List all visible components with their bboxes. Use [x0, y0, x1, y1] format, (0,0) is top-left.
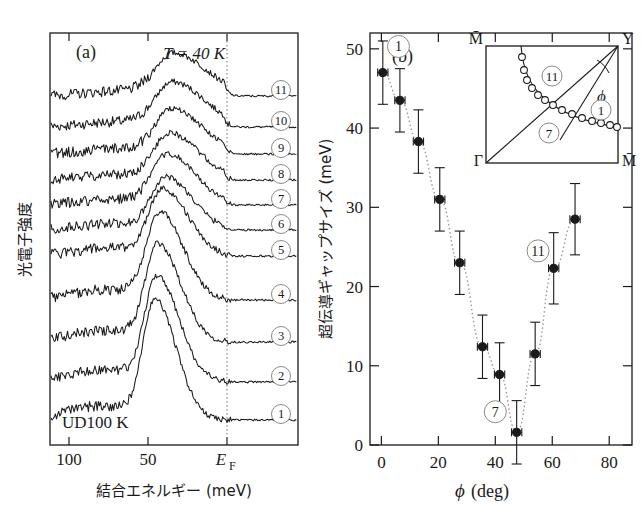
ef-subscript: F [229, 459, 236, 473]
panel-a-xtick-50: 50 [140, 450, 157, 469]
edc-index-label-2: 2 [278, 369, 284, 383]
panel-b-xtick-label-40: 40 [487, 453, 504, 472]
panel-b-ytick-label-40: 40 [346, 119, 363, 138]
panel-b-ytick-labels: 01020304050 [346, 40, 363, 455]
gap-marker [513, 428, 521, 436]
fs-point-9 [569, 111, 576, 118]
gap-marker [436, 195, 444, 203]
inset-brillouin-zone: M̄ Y Γ M̄ ϕ 1171 [469, 30, 636, 169]
inset-index-label-1: 1 [598, 103, 605, 118]
figure-svg: (a) T = 40 K UD100 K 1234567891011 100 5… [0, 0, 644, 515]
gap-marker [414, 137, 422, 145]
ef-base: E [215, 450, 227, 469]
fs-point-8 [559, 107, 566, 114]
panel-b-xtick-label-60: 60 [544, 453, 561, 472]
edc-index-label-5: 5 [278, 243, 284, 257]
panel-a-x-axis-title: 結合エネルギー (meV) [96, 482, 252, 500]
panel-a: (a) T = 40 K UD100 K 1234567891011 100 5… [16, 33, 298, 500]
fs-point-14 [614, 124, 621, 131]
panel-b-xtick-label-80: 80 [601, 453, 618, 472]
fs-point-2 [521, 67, 528, 74]
edc-index-label-8: 8 [278, 167, 284, 181]
panel-a-frame [50, 33, 298, 445]
gap-marker [478, 343, 486, 351]
panel-b-xtick-label-0: 0 [377, 453, 386, 472]
label-m-bar-bottom: M̄ [622, 152, 636, 169]
inset-index-label-7: 7 [546, 126, 553, 141]
edc-index-label-7: 7 [278, 192, 284, 206]
figure-root: (a) T = 40 K UD100 K 1234567891011 100 5… [0, 0, 644, 515]
gap-annot-label-1: 1 [395, 39, 402, 54]
gap-marker [379, 69, 387, 77]
fs-point-5 [535, 92, 542, 99]
gap-marker [571, 215, 579, 223]
panel-b-y-axis-title: 超伝導ギャップサイズ (meV) [317, 139, 335, 340]
inset-index-label-11: 11 [546, 69, 559, 84]
gap-annot-label-7: 7 [492, 405, 499, 420]
gap-marker [396, 96, 404, 104]
gap-marker [550, 264, 558, 272]
panel-a-xtick-ef: E F [215, 450, 236, 473]
edc-index-label-1: 1 [278, 407, 284, 421]
panel-b-ytick-label-0: 0 [355, 436, 364, 455]
temperature-annotation: T = 40 K [163, 44, 226, 63]
panel-b-ytick-label-50: 50 [346, 40, 363, 59]
sample-annotation: UD100 K [62, 413, 129, 432]
fs-point-6 [542, 97, 549, 104]
fs-point-7 [550, 102, 557, 109]
label-y: Y [622, 30, 634, 47]
panel-b-xtick-label-20: 20 [430, 453, 447, 472]
panel-b-xtick-labels: 020406080 [377, 453, 618, 472]
panel-a-y-axis-title: 光電子強度 [16, 202, 34, 277]
panel-a-label: (a) [76, 42, 96, 63]
panel-b-x-axis-title: ϕ (deg) [455, 480, 509, 502]
fs-point-1 [519, 54, 526, 61]
edc-index-label-9: 9 [278, 141, 284, 155]
fs-point-11 [589, 118, 596, 125]
deg-unit: (deg) [471, 481, 509, 502]
edc-index-label-11: 11 [275, 83, 287, 97]
edc-index-label-10: 10 [275, 114, 288, 128]
edc-index-label-4: 4 [278, 287, 285, 301]
fs-point-3 [524, 77, 531, 84]
panel-b-ytick-label-10: 10 [346, 357, 363, 376]
gap-marker [531, 350, 539, 358]
label-m-bar-top: M̄ [469, 30, 483, 47]
label-gamma: Γ [474, 152, 483, 169]
fs-point-13 [607, 122, 614, 129]
panel-a-xtick-100: 100 [56, 450, 82, 469]
phi-symbol: ϕ [455, 480, 465, 501]
gap-annot-label-11: 11 [531, 244, 544, 259]
edc-index-label-6: 6 [278, 217, 284, 231]
fs-point-4 [529, 85, 536, 92]
edc-index-label-3: 3 [278, 329, 284, 343]
fs-point-12 [598, 120, 605, 127]
panel-b-ytick-label-20: 20 [346, 278, 363, 297]
panel-b-ytick-label-30: 30 [346, 198, 363, 217]
gap-marker [456, 259, 464, 267]
fs-point-10 [579, 115, 586, 122]
gap-marker [495, 370, 503, 378]
